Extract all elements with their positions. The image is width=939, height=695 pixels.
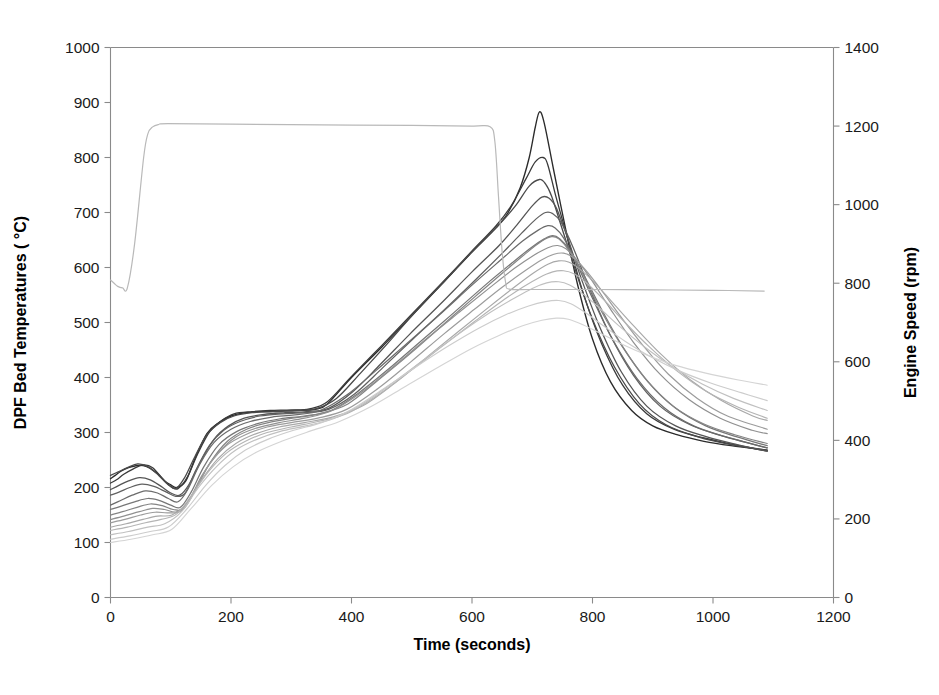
y-axis-title: DPF Bed Temperatures ( °C) bbox=[12, 216, 29, 429]
series-dpf-temp-11 bbox=[111, 261, 768, 527]
x-tick-label: 200 bbox=[218, 608, 244, 625]
x-tick-label: 0 bbox=[106, 608, 115, 625]
series-dpf-temp-7 bbox=[111, 236, 768, 510]
x-tick-label: 400 bbox=[339, 608, 365, 625]
chart-figure: 0100200300400500600700800900100002004006… bbox=[0, 0, 939, 695]
y2-tick-label: 600 bbox=[845, 353, 871, 370]
series-dpf-temp-6 bbox=[111, 226, 768, 506]
y-axis-left: 01002003004005006007008009001000 bbox=[65, 39, 110, 606]
y2-tick-label: 1400 bbox=[845, 39, 880, 56]
x-tick-label: 800 bbox=[580, 608, 606, 625]
y-tick-label: 200 bbox=[74, 479, 100, 496]
y-tick-label: 800 bbox=[74, 149, 100, 166]
series-engine-speed bbox=[111, 124, 765, 292]
y2-tick-label: 1200 bbox=[845, 118, 880, 135]
series-dpf-temp-3 bbox=[111, 179, 768, 488]
y2-tick-label: 200 bbox=[845, 510, 871, 527]
y-tick-label: 300 bbox=[74, 424, 100, 441]
series-dpf-temp-8 bbox=[111, 237, 768, 515]
series-dpf-temp-4 bbox=[111, 196, 768, 495]
y-tick-label: 100 bbox=[74, 534, 100, 551]
x-tick-label: 1000 bbox=[696, 608, 731, 625]
y2-tick-label: 1000 bbox=[845, 196, 880, 213]
series-group bbox=[111, 112, 768, 543]
y-tick-label: 900 bbox=[74, 94, 100, 111]
x-axis: 020040060080010001200 bbox=[106, 598, 851, 625]
plot-frame bbox=[111, 48, 834, 598]
dpf-temperature-line-chart: 0100200300400500600700800900100002004006… bbox=[0, 0, 939, 695]
x-tick-label: 600 bbox=[459, 608, 485, 625]
y-tick-label: 600 bbox=[74, 259, 100, 276]
x-axis-title: Time (seconds) bbox=[413, 636, 530, 653]
y2-tick-label: 400 bbox=[845, 432, 871, 449]
series-dpf-temp-14 bbox=[111, 300, 768, 539]
y-tick-label: 500 bbox=[74, 314, 100, 331]
y2-tick-label: 800 bbox=[845, 275, 871, 292]
y-tick-label: 700 bbox=[74, 204, 100, 221]
series-dpf-temp-2 bbox=[111, 157, 768, 489]
y-tick-label: 400 bbox=[74, 369, 100, 386]
series-dpf-temp-13 bbox=[111, 282, 768, 535]
x-tick-label: 1200 bbox=[816, 608, 851, 625]
series-dpf-temp-5 bbox=[111, 212, 768, 496]
y-tick-label: 0 bbox=[91, 589, 100, 606]
y-tick-label: 1000 bbox=[65, 39, 100, 56]
series-dpf-temp-12 bbox=[111, 271, 768, 531]
y2-tick-label: 0 bbox=[845, 589, 854, 606]
y-axis-right: 0200400600800100012001400 bbox=[834, 39, 880, 606]
y2-axis-title: Engine Speed (rpm) bbox=[902, 247, 919, 398]
